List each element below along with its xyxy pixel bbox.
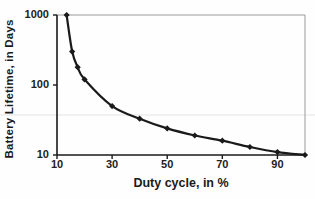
- x-tick-label: 30: [97, 158, 127, 170]
- data-point-marker: [302, 152, 308, 158]
- data-point-marker: [69, 49, 75, 55]
- data-point-marker: [137, 116, 143, 122]
- y-tick-label: 10: [0, 148, 49, 160]
- data-point-marker: [247, 144, 253, 150]
- x-tick-label: 50: [152, 158, 182, 170]
- y-tick-label: 100: [0, 78, 49, 90]
- data-point-marker: [64, 12, 70, 18]
- x-tick-label: 90: [262, 158, 292, 170]
- data-point-marker: [219, 138, 225, 144]
- x-axis-title: Duty cycle, in %: [81, 176, 281, 190]
- data-point-marker: [192, 132, 198, 138]
- y-tick-label: 1000: [0, 8, 49, 20]
- x-tick-label: 70: [207, 158, 237, 170]
- data-point-marker: [164, 125, 170, 131]
- lifetime-curve: [67, 15, 305, 155]
- battery-lifetime-vs-duty-cycle-chart: Battery Lifetime, in Days Duty cycle, in…: [0, 0, 315, 199]
